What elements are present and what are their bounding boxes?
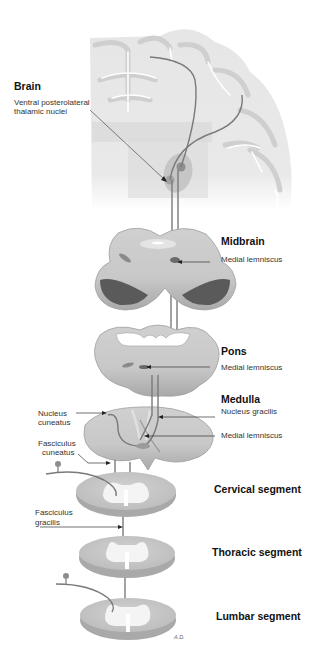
pons-section [94, 325, 219, 396]
brain-section [90, 29, 292, 210]
label-nucleus-cuneatus-line1: Nucleus [38, 409, 67, 418]
label-cervical-segment: Cervical segment [214, 483, 301, 495]
thoracic-segment-section [40, 525, 175, 578]
label-fasciculus-gracilis-line1: Fasciculus [35, 508, 73, 517]
label-nucleus-cuneatus-line2: cuneatus [38, 418, 70, 427]
label-vpl-line1: Ventral posterolateral [14, 98, 90, 107]
label-vpl-line2: thalamic nuclei [14, 107, 67, 116]
label-medulla-medial-lemniscus: Medial lemniscus [221, 431, 282, 440]
label-midbrain: Midbrain [221, 235, 265, 247]
label-fasciculus-cuneatus-line2: cuneatus [42, 448, 74, 457]
label-pons-medial-lemniscus: Medial lemniscus [221, 363, 282, 372]
label-nucleus-gracilis: Nucleus gracilis [221, 407, 277, 416]
label-fasciculus-gracilis-line2: gracilis [35, 518, 60, 527]
label-pons: Pons [221, 345, 247, 357]
label-thoracic-segment: Thoracic segment [212, 546, 302, 558]
midbrain-section [95, 228, 236, 310]
label-brain: Brain [14, 80, 41, 92]
lumbar-segment-section [56, 573, 176, 640]
label-lumbar-segment: Lumbar segment [216, 610, 301, 622]
label-midbrain-medial-lemniscus: Medial lemniscus [221, 255, 282, 264]
label-medulla: Medulla [221, 393, 260, 405]
artist-signature: A.D. [174, 634, 185, 640]
label-fasciculus-cuneatus-line1: Fasciculus [38, 439, 76, 448]
